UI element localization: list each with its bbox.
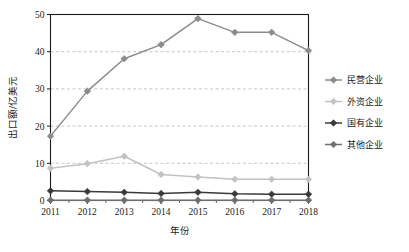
data-point xyxy=(195,197,202,204)
chart-canvas: 0102030405020112012201320142015201620172… xyxy=(0,0,409,252)
data-point xyxy=(158,171,165,178)
data-point xyxy=(47,197,54,204)
y-tick-label: 10 xyxy=(35,159,45,169)
legend: 民营企业外资企业国有企业其他企业 xyxy=(325,74,383,150)
series-3 xyxy=(47,188,312,198)
y-axis: 01020304050 xyxy=(35,10,51,206)
legend-marker-icon xyxy=(330,98,337,105)
legend-label: 民营企业 xyxy=(347,74,383,85)
x-tick-label: 2012 xyxy=(78,207,97,217)
legend-marker-icon xyxy=(330,77,337,84)
y-tick-label: 0 xyxy=(40,196,45,206)
plot-frame xyxy=(51,15,309,201)
data-point xyxy=(268,29,275,36)
line-chart: 0102030405020112012201320142015201620172… xyxy=(0,0,409,252)
data-point xyxy=(121,189,128,196)
series-2 xyxy=(47,153,312,183)
x-tick-label: 2013 xyxy=(115,207,134,217)
x-tick-label: 2018 xyxy=(299,207,318,217)
data-point xyxy=(84,188,91,195)
x-axis: 20112012201320142015201620172018 xyxy=(41,201,318,217)
data-point xyxy=(305,47,312,54)
x-tick-label: 2015 xyxy=(188,207,207,217)
data-point xyxy=(231,29,238,36)
x-tick-label: 2016 xyxy=(225,207,244,217)
y-tick-label: 30 xyxy=(35,84,45,94)
data-point xyxy=(268,197,275,204)
legend-item-3[interactable]: 国有企业 xyxy=(325,117,383,128)
x-tick-label: 2014 xyxy=(152,207,171,217)
legend-label: 外资企业 xyxy=(347,96,383,107)
y-tick-label: 40 xyxy=(35,47,45,57)
x-axis-title: 年份 xyxy=(170,225,190,236)
data-point xyxy=(47,188,54,195)
y-tick-label: 20 xyxy=(35,122,45,132)
legend-label: 其他企业 xyxy=(347,139,383,150)
legend-item-1[interactable]: 民营企业 xyxy=(325,74,383,85)
data-point xyxy=(158,190,165,197)
x-tick-label: 2017 xyxy=(262,207,281,217)
data-point xyxy=(158,197,165,204)
data-point xyxy=(195,189,202,196)
data-point xyxy=(231,176,238,183)
x-tick-label: 2011 xyxy=(41,207,60,217)
legend-label: 国有企业 xyxy=(347,117,383,128)
data-point xyxy=(121,197,128,204)
y-tick-label: 50 xyxy=(35,10,45,20)
data-point xyxy=(305,197,312,204)
data-point xyxy=(305,176,312,183)
series-line xyxy=(51,156,309,179)
data-point xyxy=(121,153,128,160)
data-point xyxy=(268,176,275,183)
legend-item-4[interactable]: 其他企业 xyxy=(325,139,383,150)
data-point xyxy=(231,191,238,198)
data-point xyxy=(84,197,91,204)
data-point xyxy=(84,160,91,167)
legend-marker-icon xyxy=(330,120,337,127)
legend-marker-icon xyxy=(330,141,337,148)
legend-item-2[interactable]: 外资企业 xyxy=(325,96,383,107)
y-axis-title: 出口额/亿美元 xyxy=(7,76,18,139)
data-point xyxy=(195,174,202,181)
data-point xyxy=(231,197,238,204)
plot-border xyxy=(51,15,309,201)
series-1 xyxy=(47,15,312,139)
data-point xyxy=(47,165,54,172)
series-line xyxy=(51,19,309,137)
